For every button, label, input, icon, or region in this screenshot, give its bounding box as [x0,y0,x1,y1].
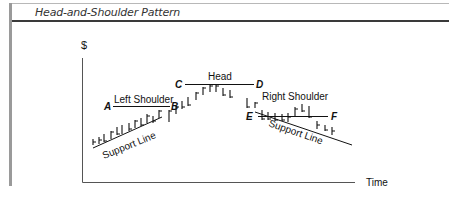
point-f-label: F [331,111,338,122]
x-axis-label: Time [366,177,388,188]
y-axis-label: $ [81,39,87,51]
point-c-label: C [175,79,183,90]
point-e-label: E [246,111,253,122]
support-line-right-label: Support Line [267,117,325,146]
head-and-shoulders-diagram: $ Time A B C D E F Left Shoulder Head Ri… [0,0,450,197]
support-line-left-label: Support Line [101,129,158,161]
right-shoulder-label: Right Shoulder [262,91,329,102]
point-a-label: A [103,101,111,112]
left-shoulder-label: Left Shoulder [114,94,174,105]
point-d-label: D [256,79,263,90]
head-label: Head [208,71,232,82]
